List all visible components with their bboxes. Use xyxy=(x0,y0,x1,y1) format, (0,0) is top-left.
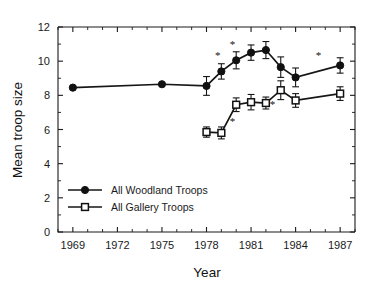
chart-figure: 024681012 1969197219751978198119841987 *… xyxy=(0,0,370,284)
data-point-filled-circle xyxy=(233,57,240,64)
data-point-open-square xyxy=(263,100,270,107)
significance-asterisk: * xyxy=(270,98,276,110)
legend-label: All Woodland Troops xyxy=(111,184,208,196)
x-tick-label: 1975 xyxy=(150,239,174,251)
legend-marker-open-square xyxy=(82,204,89,211)
data-point-open-square xyxy=(218,130,225,137)
data-point-filled-circle xyxy=(277,64,284,71)
data-point-filled-circle xyxy=(262,46,269,53)
x-tick-label: 1978 xyxy=(194,239,218,251)
data-point-open-square xyxy=(233,101,240,108)
data-point-filled-circle xyxy=(203,82,210,89)
significance-asterisk: * xyxy=(316,49,322,61)
y-tick-label: 8 xyxy=(44,89,50,101)
data-point-open-square xyxy=(292,97,299,104)
data-point-open-square xyxy=(248,99,255,106)
data-point-filled-circle xyxy=(158,81,165,88)
data-point-open-square xyxy=(337,90,344,97)
x-tick-label: 1972 xyxy=(105,239,129,251)
y-tick-label: 4 xyxy=(44,158,50,170)
data-point-open-square xyxy=(203,129,210,136)
y-tick-label: 10 xyxy=(38,55,50,67)
x-tick-label: 1981 xyxy=(239,239,263,251)
y-axis-title: Mean troop size xyxy=(10,82,25,178)
significance-asterisk: * xyxy=(215,49,221,61)
x-tick-label: 1984 xyxy=(283,239,307,251)
data-point-filled-circle xyxy=(292,74,299,81)
chart-background xyxy=(0,0,370,284)
data-point-open-square xyxy=(277,87,284,94)
data-point-filled-circle xyxy=(69,84,76,91)
legend-marker-filled-circle xyxy=(81,186,88,193)
y-tick-label: 2 xyxy=(44,192,50,204)
x-tick-label: 1969 xyxy=(61,239,85,251)
y-tick-label: 12 xyxy=(38,21,50,33)
data-point-filled-circle xyxy=(247,49,254,56)
y-tick-label: 6 xyxy=(44,124,50,136)
data-point-filled-circle xyxy=(337,62,344,69)
data-point-filled-circle xyxy=(218,68,225,75)
mean-troop-size-line-chart: 024681012 1969197219751978198119841987 *… xyxy=(0,0,370,284)
x-axis-title: Year xyxy=(193,265,221,280)
x-tick-label: 1987 xyxy=(328,239,352,251)
legend-label: All Gallery Troops xyxy=(111,201,194,213)
significance-asterisk: * xyxy=(230,38,236,50)
significance-asterisk: * xyxy=(230,115,236,127)
y-tick-label: 0 xyxy=(44,226,50,238)
